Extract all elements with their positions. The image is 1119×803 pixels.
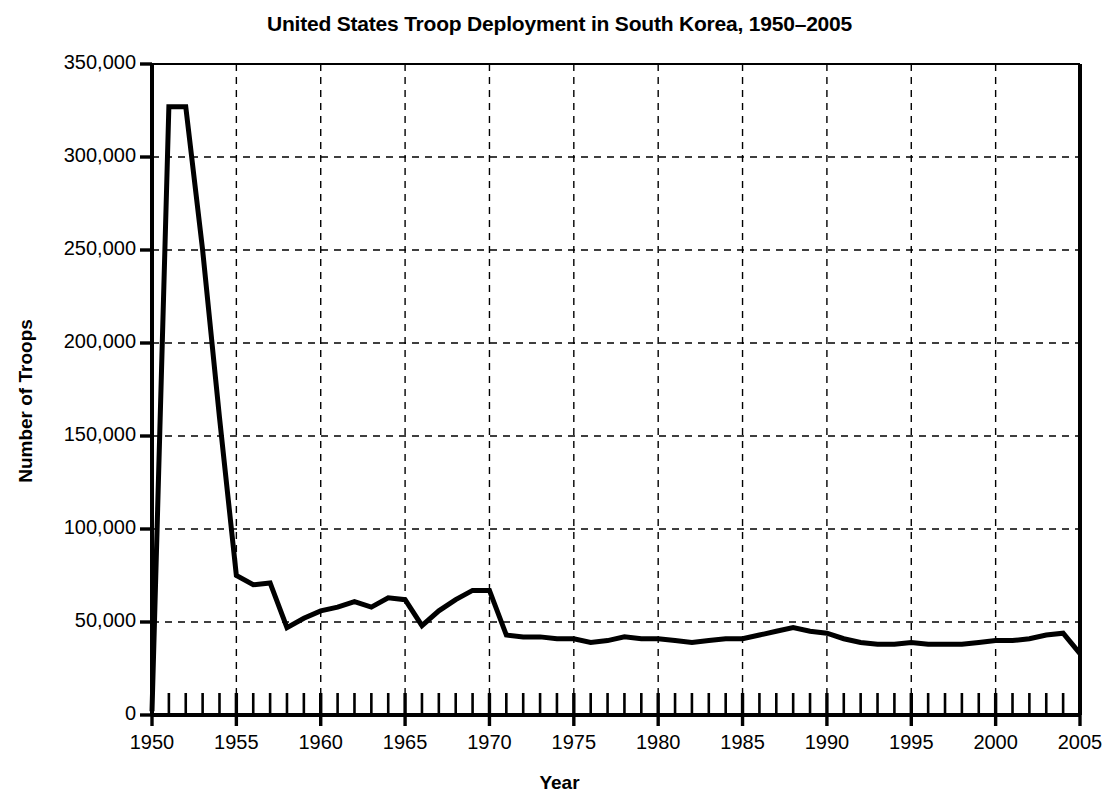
x-tick-label: 1985 [698,731,788,754]
x-tick-label: 1995 [866,731,956,754]
x-tick-label: 1960 [276,731,366,754]
x-tick-label: 1980 [613,731,703,754]
x-tick-label: 1970 [444,731,534,754]
y-tick-label: 100,000 [0,516,136,539]
y-tick-label: 200,000 [0,330,136,353]
y-tick-label: 0 [0,702,136,725]
data-line-series [152,107,1080,712]
x-tick-label: 1965 [360,731,450,754]
plot-frame [152,64,1080,715]
plot-area [0,0,1119,803]
x-tick-label: 1990 [782,731,872,754]
x-tick-label: 1955 [191,731,281,754]
axis-major-ticks [140,64,1080,726]
y-tick-label: 300,000 [0,144,136,167]
y-tick-label: 150,000 [0,423,136,446]
x-tick-label: 2005 [1035,731,1119,754]
x-tick-label: 1950 [107,731,197,754]
y-tick-label: 350,000 [0,51,136,74]
gridlines [152,64,1080,715]
x-tick-label: 1975 [529,731,619,754]
y-tick-label: 250,000 [0,237,136,260]
x-tick-label: 2000 [951,731,1041,754]
chart-figure: United States Troop Deployment in South … [0,0,1119,803]
y-tick-label: 50,000 [0,609,136,632]
x-minor-ticks [169,693,1063,715]
